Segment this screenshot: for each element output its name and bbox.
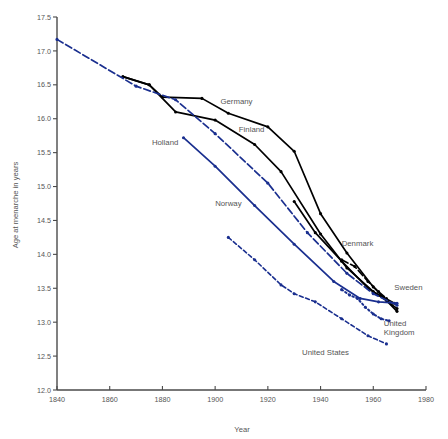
data-point [148,83,151,86]
data-point [293,243,296,246]
y-axis-tick-label: 15.0 [37,182,51,191]
data-point [214,119,217,122]
data-point [266,125,269,128]
data-point [182,136,185,139]
data-point [380,317,383,320]
data-point [377,290,380,293]
series-label-united-kingdom: Kingdom [384,328,415,337]
data-point [227,236,230,239]
data-point [372,292,375,295]
data-point [253,143,256,146]
data-point [227,112,230,115]
series-label-finland: Finland [239,125,265,134]
data-point [372,312,375,315]
data-point [345,272,348,275]
data-point [340,288,343,291]
x-axis-tick-label: 1900 [207,395,223,404]
data-point [314,231,317,234]
series-label-holland: Holland [152,138,178,147]
data-point [253,204,256,207]
y-axis-tick-label: 12.0 [37,386,51,395]
data-point [359,297,362,300]
data-point [364,306,367,309]
x-axis-tick-label: 1940 [313,395,329,404]
data-point [366,334,369,337]
series-line [228,237,386,343]
x-axis-title: Year [234,425,250,434]
y-axis-tick-label: 17.0 [37,47,51,56]
data-point [174,110,177,113]
data-point [319,232,322,235]
x-axis-tick-label: 1980 [418,395,434,404]
series-label-sweden: Sweden [394,283,422,292]
data-point [293,150,296,153]
y-axis-tick-label: 17.5 [37,13,51,22]
x-axis: 18401860188019001920194019601980 [49,386,434,404]
data-point [214,165,217,168]
data-point [314,300,317,303]
data-point [319,212,322,215]
x-axis-tick-label: 1860 [102,395,118,404]
data-point [385,342,388,345]
data-point [348,294,351,297]
data-point [395,307,398,310]
series-denmark [340,258,388,300]
data-point [293,292,296,295]
series-united-states [227,236,388,346]
data-point [306,231,309,234]
data-point [377,300,380,303]
y-axis-title: Age at menarche in years [11,162,20,249]
data-point [395,310,398,313]
x-axis-tick-label: 1840 [49,395,65,404]
menarche-age-line-chart: 12.012.513.013.514.014.515.015.516.016.5… [0,0,448,439]
data-point [340,317,343,320]
data-point [214,132,217,135]
data-point [253,258,256,261]
y-axis-tick-label: 16.5 [37,80,51,89]
data-point [174,98,177,101]
y-axis-tick-label: 16.0 [37,114,51,123]
y-axis-tick-label: 13.0 [37,318,51,327]
series-united-kingdom [340,288,391,322]
data-point [279,283,282,286]
x-axis-tick-label: 1880 [154,395,170,404]
data-point [366,280,369,283]
series-label-norway: Norway [215,199,242,208]
series-line [123,77,394,304]
data-point [345,251,348,254]
data-point [395,302,398,305]
data-point [135,85,138,88]
y-axis-tick-label: 12.5 [37,352,51,361]
chart-canvas: 12.012.513.013.514.014.515.015.516.016.5… [0,0,448,439]
data-series-group [55,38,398,346]
data-point [266,182,269,185]
data-point [340,260,343,263]
y-axis-tick-label: 15.5 [37,148,51,157]
data-point [55,38,58,41]
data-point [279,170,282,173]
x-axis-tick-label: 1920 [260,395,276,404]
data-point [332,280,335,283]
series-label-germany: Germany [220,97,252,106]
y-axis-tick-label: 14.5 [37,216,51,225]
data-point [200,97,203,100]
series-finland [121,75,396,305]
series-label-united-states: United States [302,348,349,357]
data-point [356,297,359,300]
data-point [353,265,356,268]
y-axis: 12.012.513.013.514.014.515.015.516.016.5… [37,13,57,395]
series-label-united-kingdom: United [384,319,407,328]
series-label-denmark: Denmark [342,239,374,248]
y-axis-tick-label: 14.0 [37,250,51,259]
data-point [293,200,296,203]
x-axis-tick-label: 1960 [365,395,381,404]
y-axis-tick-label: 13.5 [37,284,51,293]
